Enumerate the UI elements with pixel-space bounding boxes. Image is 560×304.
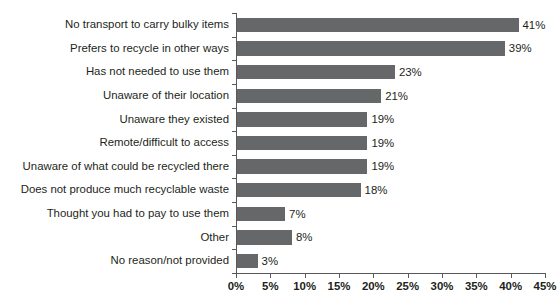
- y-axis-tick: [232, 226, 236, 227]
- bar: [237, 18, 519, 32]
- bar-value-label: 18%: [365, 183, 388, 197]
- category-label: Thought you had to pay to use them: [47, 202, 229, 226]
- category-label: No transport to carry bulky items: [65, 13, 229, 37]
- x-axis-tick: [442, 273, 443, 278]
- y-axis-tick: [232, 273, 236, 274]
- x-axis-tick-label: 25%: [396, 280, 419, 292]
- y-axis-tick: [232, 60, 236, 61]
- y-axis-tick: [232, 13, 236, 14]
- x-axis-line: [236, 273, 545, 274]
- x-axis-tick-label: 40%: [499, 280, 522, 292]
- bar: [237, 230, 292, 244]
- bar-value-label: 19%: [371, 159, 394, 173]
- y-axis-tick: [232, 131, 236, 132]
- category-label: Prefers to recycle in other ways: [70, 37, 229, 61]
- x-axis-tick: [305, 273, 306, 278]
- y-axis-tick: [232, 178, 236, 179]
- bar: [237, 89, 381, 103]
- bar: [237, 183, 361, 197]
- category-label: Unaware of what could be recycled there: [23, 155, 229, 179]
- x-axis-tick-label: 15%: [328, 280, 351, 292]
- bar-value-label: 8%: [296, 230, 312, 244]
- y-axis-tick: [232, 84, 236, 85]
- category-label: Has not needed to use them: [86, 60, 229, 84]
- bar-value-label: 7%: [289, 207, 305, 221]
- bar-value-label: 19%: [371, 136, 394, 150]
- bar-value-label: 21%: [385, 89, 408, 103]
- x-axis-tick-label: 45%: [534, 280, 557, 292]
- category-label: Unaware of their location: [103, 84, 229, 108]
- x-axis-tick: [339, 273, 340, 278]
- y-axis-tick: [232, 108, 236, 109]
- x-axis-tick-label: 35%: [465, 280, 488, 292]
- x-axis-tick: [476, 273, 477, 278]
- x-axis-tick-label: 30%: [431, 280, 454, 292]
- bar-chart: No transport to carry bulky items41%Pref…: [0, 0, 560, 304]
- bar-value-label: 39%: [509, 41, 532, 55]
- category-label: Unaware they existed: [119, 108, 229, 132]
- bar-value-label: 19%: [371, 112, 394, 126]
- bar-value-label: 3%: [262, 254, 278, 268]
- plot-area: No transport to carry bulky items41%Pref…: [236, 13, 545, 273]
- x-axis-tick: [373, 273, 374, 278]
- bar: [237, 136, 367, 150]
- category-label: Remote/difficult to access: [99, 131, 229, 155]
- x-axis-tick-label: 0%: [228, 280, 244, 292]
- x-axis-tick-label: 10%: [293, 280, 316, 292]
- bar: [237, 254, 258, 268]
- x-axis-tick-label: 5%: [262, 280, 278, 292]
- bar-value-label: 23%: [399, 65, 422, 79]
- category-label: Does not produce much recyclable waste: [21, 178, 229, 202]
- bar: [237, 159, 367, 173]
- x-axis-tick: [236, 273, 237, 278]
- x-axis-tick: [408, 273, 409, 278]
- bar: [237, 41, 505, 55]
- bar: [237, 65, 395, 79]
- bar: [237, 207, 285, 221]
- bar: [237, 112, 367, 126]
- x-axis-tick-label: 20%: [362, 280, 385, 292]
- y-axis-tick: [232, 37, 236, 38]
- bar-value-label: 41%: [523, 18, 546, 32]
- x-axis-tick: [545, 273, 546, 278]
- y-axis-tick: [232, 249, 236, 250]
- category-label: Other: [201, 226, 230, 250]
- x-axis-tick: [511, 273, 512, 278]
- category-label: No reason/not provided: [111, 249, 229, 273]
- x-axis-tick: [270, 273, 271, 278]
- y-axis-tick: [232, 202, 236, 203]
- chart-title: [0, 0, 560, 3]
- y-axis-tick: [232, 155, 236, 156]
